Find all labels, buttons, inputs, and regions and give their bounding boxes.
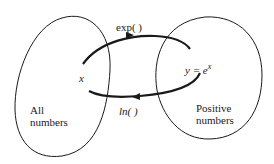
ln-arrowhead-icon: [132, 93, 140, 100]
left-element-x: x: [79, 72, 84, 84]
ln-arrow: [89, 73, 200, 97]
exp-arrow: [83, 36, 190, 64]
left-set-label: All numbers: [30, 104, 68, 128]
right-element-y: y = ex: [185, 61, 211, 76]
exp-label: exp( ): [116, 21, 142, 33]
ln-label: ln( ): [119, 105, 138, 117]
right-set-label: Positive numbers: [196, 102, 234, 126]
function-mapping-diagram: exp( ) ln( ) x y = ex All numbers Positi…: [0, 0, 274, 164]
left-set-boundary: [15, 16, 110, 156]
